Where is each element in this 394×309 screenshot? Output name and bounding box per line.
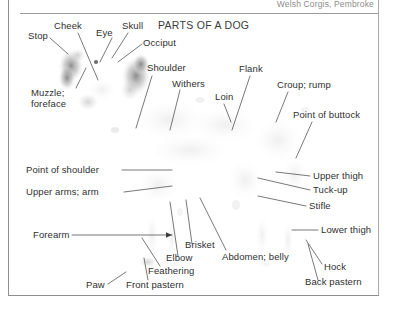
label-paw: Paw — [86, 280, 105, 291]
leader-occiput — [118, 44, 142, 62]
leader-withers — [170, 90, 180, 130]
label-brisket: Brisket — [185, 240, 215, 251]
leader-flank — [232, 76, 250, 130]
label-withers: Withers — [172, 79, 205, 90]
leader-muzzle — [76, 68, 86, 88]
label-skull: Skull — [122, 21, 143, 32]
leader-paw — [108, 272, 126, 284]
label-stifle: Stifle — [309, 201, 331, 212]
label-stop: Stop — [28, 31, 48, 42]
leader-hock — [306, 240, 322, 264]
leader-loin — [224, 104, 231, 122]
leader-forearm-arrowhead — [166, 232, 172, 238]
leader-shoulder — [136, 76, 152, 128]
leader-point-of-buttock — [296, 122, 312, 158]
label-back-pastern: Back pastern — [305, 277, 362, 288]
label-elbow: Elbow — [166, 253, 192, 264]
leader-croup — [276, 92, 288, 122]
label-muzzle-line2: foreface — [31, 98, 66, 109]
leader-back-pastern — [308, 244, 318, 280]
label-cheek: Cheek — [54, 21, 82, 32]
leader-elbow — [170, 202, 178, 256]
leader-eye — [100, 38, 112, 62]
leader-upper-arms — [124, 186, 172, 192]
label-muzzle-line1: Muzzle; — [31, 87, 64, 98]
label-loin: Loin — [215, 92, 233, 103]
label-croup-rump: Croup; rump — [277, 80, 331, 91]
figure-page: Welsh Corgis, Pembroke PARTS OF A DOG — [0, 0, 394, 309]
label-upper-thigh: Upper thigh — [313, 171, 363, 182]
label-upper-arms-arm: Upper arms; arm — [26, 187, 99, 198]
leader-tuck-up — [258, 178, 310, 190]
label-lower-thigh: Lower thigh — [321, 225, 371, 236]
label-hock: Hock — [324, 262, 346, 273]
leader-stop — [50, 38, 68, 54]
leader-skull — [112, 33, 128, 58]
label-flank: Flank — [239, 64, 263, 75]
label-point-of-shoulder: Point of shoulder — [26, 165, 99, 176]
label-eye: Eye — [96, 28, 113, 39]
leader-upper-thigh — [276, 172, 310, 176]
label-front-pastern: Front pastern — [126, 280, 184, 291]
leader-brisket — [186, 200, 192, 244]
label-tuck-up: Tuck-up — [313, 185, 348, 196]
leader-stifle — [258, 196, 306, 206]
label-muzzle-foreface: Muzzle; foreface — [31, 88, 87, 109]
leader-cheek — [78, 33, 98, 80]
label-shoulder: Shoulder — [147, 63, 186, 74]
label-feathering: Feathering — [148, 266, 194, 277]
label-point-of-buttock: Point of buttock — [293, 110, 360, 121]
label-abdomen-belly: Abdomen; belly — [222, 252, 289, 263]
label-forearm: Forearm — [33, 230, 70, 241]
label-occiput: Occiput — [143, 38, 176, 49]
